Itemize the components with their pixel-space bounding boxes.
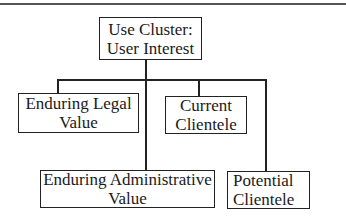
current-stem — [198, 79, 200, 96]
node-line-2: Clientele — [233, 190, 294, 209]
node-line-1: Enduring Administrative — [43, 170, 212, 189]
node-potential-clientele: Potential Clientele — [227, 171, 310, 209]
root-line-1: Use Cluster: — [108, 20, 193, 39]
node-line-2: Value — [59, 113, 98, 132]
root-line-2: User Interest — [107, 39, 194, 58]
node-line-2: Value — [108, 189, 147, 208]
branch-bar — [57, 79, 266, 81]
node-line-1: Potential — [233, 171, 293, 190]
node-enduring-legal: Enduring Legal Value — [18, 93, 139, 133]
node-enduring-administrative: Enduring Administrative Value — [40, 170, 215, 208]
top-rule — [0, 3, 346, 5]
potential-stem — [265, 79, 267, 171]
legal-stem — [57, 79, 59, 94]
node-line-2: Clientele — [175, 115, 236, 134]
node-line-1: Current — [180, 96, 232, 115]
root-node: Use Cluster: User Interest — [99, 17, 202, 60]
node-line-1: Enduring Legal — [25, 94, 131, 113]
node-current-clientele: Current Clientele — [165, 96, 247, 134]
root-stem — [145, 59, 147, 170]
